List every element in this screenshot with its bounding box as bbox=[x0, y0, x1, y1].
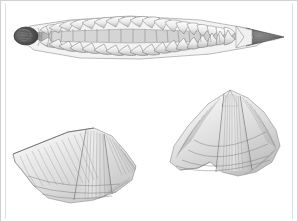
figure-winged-brachiopod-shell-right bbox=[164, 84, 288, 188]
brachiopod-left-drawing bbox=[8, 108, 144, 212]
figure-winged-brachiopod-shell-left bbox=[8, 108, 144, 212]
figure-segmented-trilobite-fossil bbox=[10, 8, 288, 70]
trilobite-pygidium bbox=[236, 26, 284, 48]
trilobite-cephalon bbox=[14, 27, 38, 45]
trilobite-drawing bbox=[10, 8, 288, 70]
brachiopod-right-drawing bbox=[164, 84, 288, 188]
fossil-plate bbox=[0, 0, 298, 222]
